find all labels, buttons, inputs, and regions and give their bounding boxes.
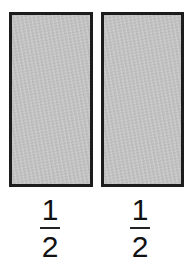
fraction-label-left: 1 2 — [30, 196, 70, 261]
numerator: 1 — [42, 196, 59, 224]
fraction-bar — [40, 227, 60, 229]
half-part-right — [101, 12, 184, 187]
denominator: 2 — [42, 233, 59, 261]
fraction-bar — [130, 227, 150, 229]
half-part-left — [9, 12, 93, 187]
denominator: 2 — [132, 233, 149, 261]
numerator: 1 — [132, 196, 149, 224]
fraction-label-right: 1 2 — [120, 196, 160, 261]
